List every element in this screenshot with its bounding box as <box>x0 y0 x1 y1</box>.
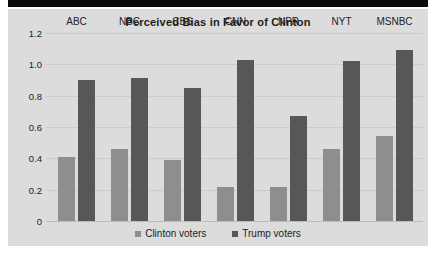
y-axis-tick-label: 0.4 <box>16 153 42 164</box>
axis-baseline <box>46 221 423 222</box>
bar-npr-trump-voters <box>290 116 307 221</box>
y-axis-tick-label: 1.0 <box>16 59 42 70</box>
y-axis-tick-label: 0 <box>16 216 42 227</box>
bar-cnn-trump-voters <box>237 60 254 221</box>
bar-msnbc-clinton-voters <box>376 136 393 221</box>
legend-label: Clinton voters <box>145 228 206 239</box>
legend-label: Trump voters <box>242 228 301 239</box>
category-label-msnbc: MSNBC <box>376 16 412 27</box>
bar-nyt-clinton-voters <box>323 149 340 221</box>
chart-screenshot: Perceived Bias in Favor of Clinton 00.20… <box>0 0 436 262</box>
legend-swatch-icon <box>135 231 141 237</box>
chart-panel: Perceived Bias in Favor of Clinton 00.20… <box>8 9 428 246</box>
category-label-cnn: CNN <box>225 16 247 27</box>
scan-artifact-band <box>8 0 428 7</box>
category-label-nbc: NBC <box>119 16 140 27</box>
category-label-cbs: CBS <box>172 16 193 27</box>
y-axis-tick-label: 0.8 <box>16 90 42 101</box>
y-axis-tick-label: 0.6 <box>16 122 42 133</box>
bar-abc-trump-voters <box>78 80 95 221</box>
gridline <box>46 158 423 159</box>
bar-msnbc-trump-voters <box>396 50 413 221</box>
gridline <box>46 64 423 65</box>
bar-cbs-trump-voters <box>184 88 201 221</box>
plot-area: 00.20.40.60.81.01.2 ABCNBCCBSCNNNPRNYTMS… <box>38 33 423 221</box>
bar-abc-clinton-voters <box>58 157 75 221</box>
legend-item-trump-voters[interactable]: Trump voters <box>232 228 301 239</box>
bar-cbs-clinton-voters <box>164 160 181 221</box>
bar-npr-clinton-voters <box>270 187 287 221</box>
y-axis-tick-label: 1.2 <box>16 28 42 39</box>
y-axis-tick-label: 0.2 <box>16 184 42 195</box>
category-label-abc: ABC <box>66 16 87 27</box>
category-label-nyt: NYT <box>332 16 352 27</box>
bar-nbc-trump-voters <box>131 78 148 221</box>
chart-legend: Clinton votersTrump voters <box>8 228 428 239</box>
bar-nbc-clinton-voters <box>111 149 128 221</box>
legend-item-clinton-voters[interactable]: Clinton voters <box>135 228 206 239</box>
gridline <box>46 33 423 34</box>
bar-nyt-trump-voters <box>343 61 360 221</box>
gridline <box>46 96 423 97</box>
gridline <box>46 127 423 128</box>
gridline <box>46 190 423 191</box>
legend-swatch-icon <box>232 231 238 237</box>
bar-cnn-clinton-voters <box>217 187 234 221</box>
category-label-npr: NPR <box>278 16 299 27</box>
